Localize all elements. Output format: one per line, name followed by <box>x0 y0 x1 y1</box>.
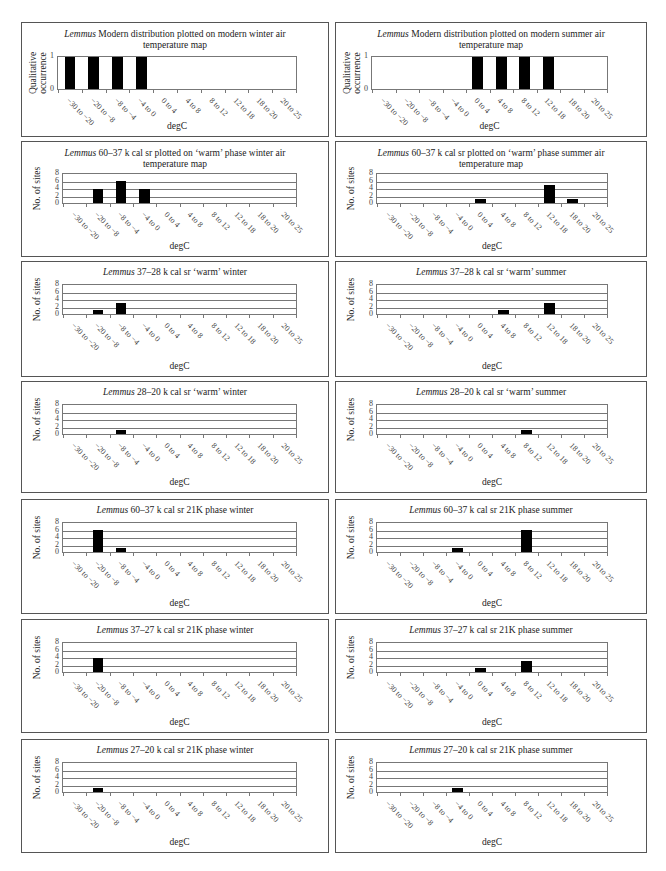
chart-title-text: 27–20 k cal sr 21K phase summer <box>441 745 573 755</box>
x-tick-label: 12 to 18 <box>544 210 569 235</box>
gridline <box>377 771 607 772</box>
gridline <box>377 786 607 787</box>
y-tick-label: 8 <box>363 758 373 766</box>
chart-title-text: 37–28 k cal sr ‘warm’ winter <box>135 267 247 277</box>
y-axis-label: No. of sites <box>346 510 356 565</box>
y-tick-label: 0 <box>49 199 59 207</box>
x-tick-mark <box>133 204 134 207</box>
x-tick-mark <box>377 673 378 676</box>
x-tick-mark <box>423 315 424 318</box>
x-tick-mark <box>248 90 249 93</box>
x-tick-label: 8 to 12 <box>521 799 543 821</box>
chart-title: Lemmus 60–37 k cal sr plotted on ‘warm’ … <box>336 148 646 170</box>
gridline <box>377 300 607 301</box>
chart-title-species: Lemmus <box>103 387 135 397</box>
bar-0-to-4 <box>475 199 485 203</box>
gridline <box>63 428 296 429</box>
chart-title-species: Lemmus <box>103 267 135 277</box>
x-tick-mark <box>423 553 424 556</box>
x-tick-mark <box>561 315 562 318</box>
x-tick-mark <box>492 793 493 796</box>
bar--8-to-4 <box>116 548 126 552</box>
chart-title-text: 60–37 k cal sr 21K phase summer <box>441 505 573 515</box>
y-tick-label: 8 <box>363 280 373 288</box>
x-tick-mark <box>372 90 373 93</box>
y-tick-label: 0 <box>49 310 59 318</box>
x-tick-mark <box>446 204 447 207</box>
x-tick-label: 18 to 20 <box>256 441 281 466</box>
bar-12-to-18 <box>543 57 554 89</box>
x-tick-mark <box>377 553 378 556</box>
x-tick-label: 12 to 18 <box>544 799 569 824</box>
y-axis-label: Qualitativeoccurrence <box>28 48 48 98</box>
bar--20-to-8 <box>93 658 103 673</box>
x-tick-mark <box>296 90 297 93</box>
x-tick-label: 20 to 25 <box>279 679 304 704</box>
x-tick-mark <box>86 435 87 438</box>
bar-8-to-12 <box>521 661 531 672</box>
x-tick-mark <box>584 204 585 207</box>
x-tick-label: 20 to 25 <box>590 559 615 584</box>
x-tick-mark <box>86 315 87 318</box>
y-tick-label: 8 <box>49 758 59 766</box>
chart-panel: Lemmus 27–20 k cal sr 21K phase summer02… <box>335 739 647 853</box>
x-tick-mark <box>110 315 111 318</box>
x-tick-label: 4 to 8 <box>186 799 205 818</box>
x-tick-mark <box>249 435 250 438</box>
x-tick-mark <box>400 673 401 676</box>
x-tick-label: 8 to 12 <box>521 679 543 701</box>
bar--4-to-0 <box>452 548 462 552</box>
x-tick-label: 0 to 4 <box>163 559 182 578</box>
y-axis-label: No. of sites <box>32 510 42 565</box>
x-tick-label: 18 to 20 <box>567 559 592 584</box>
chart-title-species: Lemmus <box>65 148 97 158</box>
y-axis-label: No. of sites <box>346 630 356 685</box>
bar-12-to-18 <box>544 303 554 314</box>
gridline <box>377 658 607 659</box>
x-tick-label: 0 to 4 <box>163 210 182 229</box>
x-tick-label: 18 to 20 <box>256 321 281 346</box>
plot-area <box>376 522 608 553</box>
plot-area <box>62 762 297 793</box>
bar--8-to-4 <box>116 303 126 314</box>
x-tick-mark <box>607 793 608 796</box>
x-tick-mark <box>538 673 539 676</box>
x-tick-mark <box>377 793 378 796</box>
x-tick-label: 20 to 25 <box>279 799 304 824</box>
x-tick-mark <box>584 673 585 676</box>
x-tick-mark <box>492 315 493 318</box>
x-tick-label: 0 to 4 <box>160 96 179 115</box>
x-axis-label: degC <box>376 598 608 608</box>
y-tick-label: 2 <box>49 423 59 431</box>
plot-area <box>371 56 608 90</box>
x-tick-label: 8 to 12 <box>209 559 231 581</box>
x-tick-label: −4 to 0 <box>139 679 161 701</box>
y-tick-label: 4 <box>49 773 59 781</box>
y-tick-label: 8 <box>363 400 373 408</box>
x-axis-label: degC <box>376 717 608 727</box>
chart-title-text: 28–20 k cal sr ‘warm’ summer <box>448 387 567 397</box>
chart-title-species: Lemmus <box>416 387 448 397</box>
chart-title: Lemmus Modern distribution plotted on mo… <box>22 29 328 51</box>
x-tick-mark <box>469 553 470 556</box>
x-tick-mark <box>249 673 250 676</box>
x-tick-mark <box>538 204 539 207</box>
x-tick-mark <box>110 204 111 207</box>
chart-panel: Lemmus 37–28 k cal sr ‘warm’ winter02468… <box>21 261 329 377</box>
y-tick-label: 4 <box>363 295 373 303</box>
x-tick-label: 20 to 25 <box>590 210 615 235</box>
y-tick-label: 8 <box>363 169 373 177</box>
x-tick-mark <box>515 673 516 676</box>
chart-panel: Lemmus Modern distribution plotted on mo… <box>335 22 647 137</box>
chart-panel: Lemmus 37–27 k cal sr 21K phase summer02… <box>335 619 647 733</box>
y-tick-label: 4 <box>49 653 59 661</box>
x-tick-label: 0 to 4 <box>475 210 494 229</box>
gridline <box>377 189 607 190</box>
x-tick-mark <box>225 90 226 93</box>
chart-panel: Lemmus Modern distribution plotted on mo… <box>21 22 329 137</box>
x-tick-label: 0 to 4 <box>473 96 492 115</box>
x-tick-mark <box>272 90 273 93</box>
plot-area <box>62 173 297 204</box>
x-tick-mark <box>537 90 538 93</box>
gridline <box>377 413 607 414</box>
